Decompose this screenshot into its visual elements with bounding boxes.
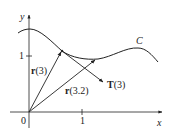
vector-r3-arrow (29, 52, 61, 112)
vector-r3-arg: (3) (35, 65, 47, 76)
y-tick-label: 1 (19, 51, 24, 61)
vector-r32-label: r(3.2) (65, 86, 89, 96)
vector-T3-label: T(3) (107, 80, 125, 90)
vector-T3-arg: (3) (114, 79, 126, 90)
vector-r32-arg: (3.2) (69, 85, 88, 96)
vector-r3-label: r(3) (31, 66, 47, 76)
vector-T3-arrow (62, 51, 103, 82)
origin-label: 0 (21, 116, 26, 126)
vector-T3-symbol: T (107, 79, 114, 90)
point-r3 (61, 50, 63, 52)
curve-label: C (136, 36, 143, 46)
x-axis-label: x (157, 118, 161, 128)
x-tick-label: 1 (80, 116, 85, 126)
vector-curve-diagram (0, 0, 170, 133)
y-axis-label: y (20, 12, 24, 22)
